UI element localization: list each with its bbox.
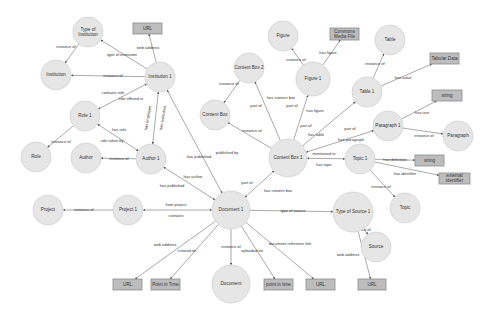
edge-label-text: from project xyxy=(165,202,187,207)
node-tabular-data[interactable]: Tabular Data xyxy=(430,53,459,64)
node-label: Point in Time xyxy=(152,282,179,287)
node-label: Source xyxy=(369,244,384,249)
node-document[interactable]: Document xyxy=(212,265,250,303)
node-label: Media File xyxy=(334,34,356,39)
edge-label: has table xyxy=(308,132,325,137)
node-author[interactable]: Author xyxy=(71,143,101,173)
node-author-1[interactable]: Author 1 xyxy=(136,144,166,174)
edge-label: contains role xyxy=(102,90,125,95)
edge-label: web address xyxy=(137,45,160,50)
edge-label-text: has definition xyxy=(383,157,407,162)
node-string-para[interactable]: string xyxy=(432,90,462,101)
node-document-1[interactable]: Document 1 xyxy=(212,191,250,229)
node-topic[interactable]: Topic xyxy=(390,193,420,223)
node-point-in-time-lower[interactable]: point in time xyxy=(264,279,293,290)
edge-label-text: has author xyxy=(184,174,204,179)
edge-label: has figure xyxy=(306,108,324,113)
edge-label: has topic xyxy=(316,162,332,167)
edge-label: role offered in xyxy=(119,96,143,101)
edge-label: has author xyxy=(184,174,204,179)
node-content-box-1[interactable]: Content Box 1 xyxy=(269,139,307,177)
node-label: Content Box xyxy=(202,112,228,117)
edge-label: has employee xyxy=(143,104,152,130)
node-url-inst[interactable]: URL xyxy=(133,23,162,34)
edge-label-text: part of xyxy=(344,126,356,131)
node-type-of-institution[interactable]: Type ofInstitution xyxy=(73,17,103,47)
edge-label-text: role offered in xyxy=(119,96,143,101)
node-string-topic[interactable]: string xyxy=(415,155,444,166)
node-url-docref[interactable]: URL xyxy=(306,279,335,290)
node-external-identifier[interactable]: externalidentifier xyxy=(439,173,470,184)
node-project[interactable]: Project xyxy=(33,195,63,225)
node-content-box-2[interactable]: Content Box 2 xyxy=(234,53,264,83)
edge-label-text: has published xyxy=(187,154,212,159)
edge-label: published by xyxy=(216,150,238,155)
edge-label: has paragraph xyxy=(338,137,364,142)
node-label: URL xyxy=(143,26,153,31)
node-label: identifier xyxy=(446,178,464,183)
node-source[interactable]: Source xyxy=(361,232,391,262)
node-label: Institution xyxy=(46,72,66,77)
knowledge-graph-diagram: instance oftype of institutionweb addres… xyxy=(0,0,494,318)
edge-label: has published xyxy=(187,154,212,159)
node-label: Tabular Data xyxy=(431,56,457,61)
edge-label: instance of xyxy=(371,184,391,189)
node-figure[interactable]: Figure xyxy=(268,21,298,51)
node-label: point in time xyxy=(266,282,291,287)
node-url-doc[interactable]: URL xyxy=(113,279,142,290)
edge-label-text: has identifier xyxy=(394,171,417,176)
edge-label-text: mentioned in xyxy=(313,151,336,156)
node-paragraph-1[interactable]: Paragraph 1 xyxy=(373,111,403,141)
edge-label: type of source xyxy=(280,208,306,213)
node-label: Author 1 xyxy=(142,156,160,161)
node-label: Author xyxy=(79,155,93,160)
node-label: Role 1 xyxy=(78,113,92,118)
node-label: string xyxy=(441,93,453,98)
edge-content-box-1-to-figure-1 xyxy=(294,95,308,140)
edge-label-text: has text xyxy=(415,110,430,115)
node-type-of-source-1[interactable]: Type of Source 1 xyxy=(333,192,373,232)
node-institution[interactable]: Institution xyxy=(41,60,71,90)
edge-label-text: instance of xyxy=(109,156,129,161)
edge-label: has text xyxy=(415,110,430,115)
edge-label: has content box xyxy=(264,188,292,193)
node-label: Project xyxy=(41,207,56,212)
node-table-1[interactable]: Table 1 xyxy=(352,77,382,107)
edge-content-box-1-to-content-box xyxy=(228,123,272,149)
edge-label-text: created on xyxy=(178,248,197,253)
edge-label: web address xyxy=(154,242,177,247)
edge-label-text: contains xyxy=(169,213,184,218)
node-role[interactable]: Role xyxy=(21,142,51,172)
node-commons-media-file[interactable]: CommonsMedia File xyxy=(330,28,359,40)
node-point-in-time-box[interactable]: Point in Time xyxy=(151,279,180,290)
edge-label: part of xyxy=(344,126,356,131)
edge-label: uploaded on xyxy=(241,248,263,253)
edge-label-text: has published xyxy=(160,183,185,188)
node-institution-1[interactable]: Institution 1 xyxy=(145,62,175,92)
edge-label-text: part of xyxy=(286,103,298,108)
node-topic-1[interactable]: Topic 1 xyxy=(345,144,375,174)
edge-label-text: has paragraph xyxy=(338,137,364,142)
edge-label-text: instance of xyxy=(103,73,123,78)
node-role-1[interactable]: Role 1 xyxy=(70,101,100,131)
edge-label: has content box xyxy=(267,95,295,100)
edge-label-text: has content box xyxy=(267,95,295,100)
node-label: Topic 1 xyxy=(353,156,368,161)
node-url-source[interactable]: URL xyxy=(358,279,386,290)
edge-label-text: has institution xyxy=(158,105,167,130)
node-label: Topic xyxy=(400,205,411,210)
edge-label-text: has content box xyxy=(264,188,292,193)
node-table[interactable]: Table xyxy=(375,25,405,55)
node-content-box[interactable]: Content Box xyxy=(200,100,230,130)
node-project-1[interactable]: Project 1 xyxy=(113,195,143,225)
edge-label: instance of xyxy=(365,61,385,66)
node-figure-1[interactable]: Figure 1 xyxy=(296,62,330,96)
node-label: string xyxy=(424,158,436,163)
edge-label-text: document reference link xyxy=(269,241,312,246)
node-paragraph[interactable]: Paragraph xyxy=(443,121,473,151)
edge-label-text: type of institution xyxy=(107,52,137,57)
edge-label: created on xyxy=(178,248,197,253)
edge-label-text: part of xyxy=(250,103,262,108)
edge-label-text: part of xyxy=(241,180,253,185)
edge-label: instance of xyxy=(219,81,239,86)
